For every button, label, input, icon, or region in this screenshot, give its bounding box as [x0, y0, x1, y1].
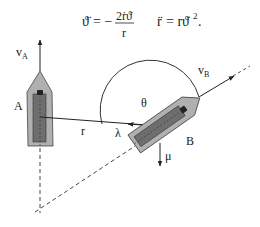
- boat-a: [27, 71, 53, 146]
- lambda-label: λ: [115, 127, 121, 139]
- boat-a-deck: [33, 94, 46, 142]
- boat-b-track-dashed: [35, 146, 135, 212]
- boat-b: [128, 89, 206, 153]
- mu-label: μ: [165, 150, 171, 162]
- pursuit-diagram: [0, 0, 260, 227]
- velocity-b-label: vB: [198, 64, 209, 79]
- r-label: r: [81, 125, 85, 137]
- boat-b-heading-dashed: [233, 66, 250, 76]
- theta-label: θ: [141, 97, 147, 109]
- boat-a-label: A: [14, 100, 23, 112]
- velocity-a-label: vA: [16, 46, 28, 61]
- boat-b-label: B: [186, 135, 194, 147]
- boat-a-cabin: [37, 90, 43, 95]
